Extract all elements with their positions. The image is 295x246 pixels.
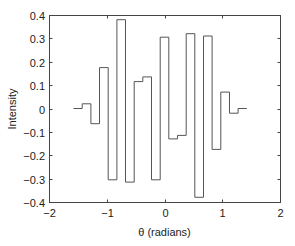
y-tick-label: −0.4 bbox=[23, 197, 45, 209]
y-axis-label: Intensity bbox=[6, 88, 18, 129]
y-tick-label: 0.4 bbox=[30, 10, 45, 22]
x-tick-label: −1 bbox=[101, 207, 114, 219]
y-tick-label: −0.3 bbox=[23, 174, 45, 186]
y-tick-label: −0.2 bbox=[23, 150, 45, 162]
y-tick-label: 0.3 bbox=[30, 33, 45, 45]
x-axis-ticks: −2−1012 bbox=[43, 16, 283, 220]
y-tick-label: 0.2 bbox=[30, 57, 45, 69]
x-axis-label: θ (radians) bbox=[138, 226, 191, 238]
x-tick-label: −2 bbox=[43, 207, 56, 219]
intensity-step-line bbox=[74, 20, 247, 198]
intensity-chart: −2−1012 0.40.30.20.10−0.1−0.2−0.3−0.4 θ … bbox=[0, 0, 295, 246]
x-tick-label: 1 bbox=[219, 207, 225, 219]
y-tick-label: 0.1 bbox=[30, 80, 45, 92]
y-tick-label: −0.1 bbox=[23, 127, 45, 139]
y-tick-label: 0 bbox=[39, 104, 45, 116]
x-tick-label: 0 bbox=[162, 207, 168, 219]
x-tick-label: 2 bbox=[277, 207, 283, 219]
